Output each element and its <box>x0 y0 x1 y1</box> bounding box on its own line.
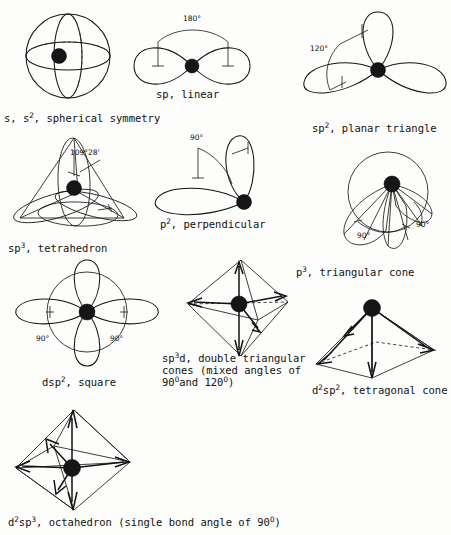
caption-sp3d-line2: cones (mixed angles of <box>162 364 301 377</box>
lobe-right <box>192 48 250 84</box>
d2sp2-diagram <box>310 300 442 386</box>
lobe-lower-left <box>304 63 378 93</box>
lobe-vertical <box>226 136 254 202</box>
caption-s-orbital: s, s2, spherical symmetry <box>4 112 160 125</box>
angle-label-90-right: 90° <box>416 220 429 229</box>
caption-sp-linear: sp, linear <box>156 88 219 101</box>
nucleus-dot <box>185 59 199 73</box>
angle-arc-180 <box>158 30 228 42</box>
nucleus-dot <box>237 195 252 210</box>
p3-diagram <box>330 148 448 260</box>
caption-dsp2: dsp2, square <box>42 376 116 389</box>
lobe-top <box>363 12 393 70</box>
bond-front-bottom <box>368 308 376 378</box>
s-orbital-diagram <box>12 8 124 106</box>
lobe-horizontal <box>155 188 244 214</box>
caption-p2: p2, perpendicular <box>160 218 266 231</box>
caption-sp3: sp3, tetrahedron <box>8 242 107 255</box>
nucleus-dot <box>371 63 386 78</box>
p2-diagram <box>148 126 270 222</box>
bond-right <box>372 308 434 353</box>
caption-sp3d-line3: 90Oand 120O) <box>162 376 234 389</box>
angle-arc-120 <box>327 44 340 90</box>
caption-sp2: sp2, planar triangle <box>312 122 437 135</box>
lobe-lower-left <box>10 182 101 229</box>
angle-tick-left <box>152 42 164 66</box>
caption-d2sp2: d2sp2, tetragonal cone <box>312 384 447 397</box>
figure-sp3d-bipyramid <box>182 256 300 360</box>
meridian-ellipse-back <box>68 14 82 98</box>
angle-label-109-28: 109°28' <box>70 148 100 157</box>
figure-p2-perpendicular <box>148 126 270 222</box>
lobe-lower-right <box>378 63 446 93</box>
angle-tick-horizontal <box>192 148 204 178</box>
lobe-left <box>16 299 87 324</box>
nucleus-dot <box>52 49 67 64</box>
pyramid-edges <box>372 308 434 378</box>
angle-leader <box>80 160 100 172</box>
angle-arrowheads-left <box>354 220 410 228</box>
angle-label-120: 120° <box>310 44 328 53</box>
equator-ellipse-back <box>26 42 110 56</box>
sp-linear-diagram <box>130 24 255 86</box>
sphere-outline <box>26 14 110 98</box>
figure-sp2-planar-triangle <box>300 8 448 113</box>
angle-tick-right <box>222 42 234 66</box>
nucleus-dot <box>231 296 247 312</box>
sp3d-diagram <box>182 256 300 360</box>
caption-sp3d: sp3d, double triangular <box>162 352 306 365</box>
angle-arc-90 <box>198 148 232 184</box>
angle-label-90-left: 90° <box>36 334 49 343</box>
angle-label-90-right: 90° <box>110 334 123 343</box>
dsp2-diagram <box>12 266 162 372</box>
angle-label-180: 180° <box>183 14 201 23</box>
sp2-diagram <box>300 8 448 113</box>
figure-sp-linear <box>130 24 255 86</box>
caption-d2sp3: d2sp3, octahedron (single bond angle of … <box>8 516 281 529</box>
d2sp3-diagram <box>10 406 140 514</box>
nucleus-dot <box>64 460 81 477</box>
nucleus-dot <box>384 176 400 192</box>
figure-d2sp2-tetragonal-cone <box>310 300 442 386</box>
figure-s-orbital <box>12 8 124 106</box>
angle-tick-lower <box>330 76 346 90</box>
nucleus-dot <box>79 304 95 320</box>
angle-tick-vertical <box>232 142 248 154</box>
angle-tick-side <box>98 204 112 212</box>
caption-p3: p3, triangular cone <box>296 266 414 279</box>
angle-label-90-left: 90° <box>357 231 370 240</box>
lobe-right <box>87 299 158 324</box>
figure-p3-triangular-cone <box>330 148 448 260</box>
figure-d2sp3-octahedron <box>10 406 140 514</box>
figure-dsp2-square <box>12 266 162 372</box>
hidden-base-edges <box>316 342 434 364</box>
angle-label-90: 90° <box>190 133 203 142</box>
nucleus-dot <box>364 300 381 317</box>
nucleus-dot <box>67 181 82 196</box>
